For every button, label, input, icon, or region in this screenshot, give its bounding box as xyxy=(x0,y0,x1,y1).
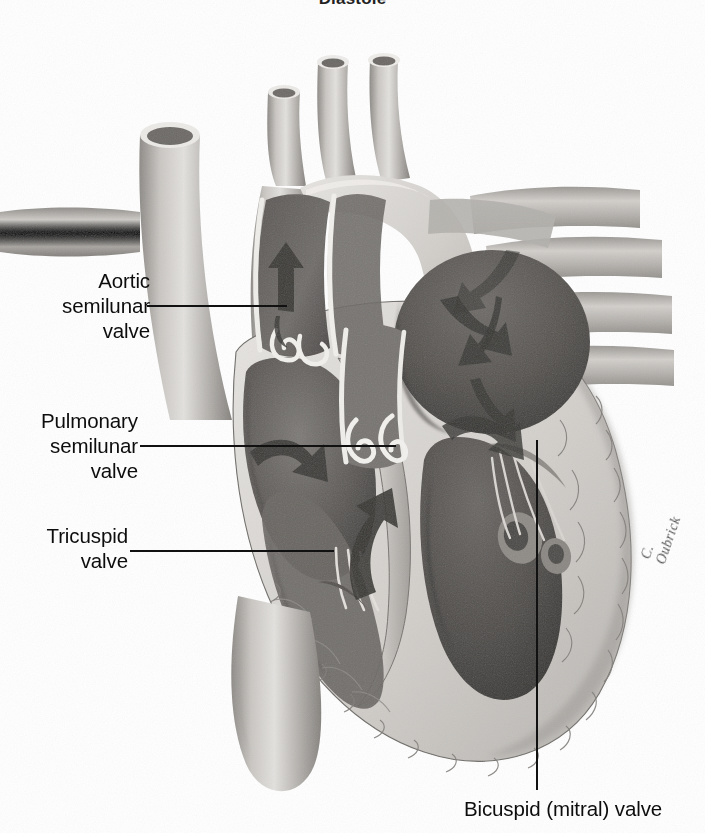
figure-canvas: Diastole xyxy=(0,0,705,833)
leader-line-aortic xyxy=(147,305,287,307)
label-pulmonary-semilunar-valve: Pulmonary semilunar valve xyxy=(4,408,138,483)
inferior-vena-cava xyxy=(231,596,321,791)
label-bicuspid-mitral-valve: Bicuspid (mitral) valve xyxy=(432,796,694,821)
label-tricuspid-valve: Tricuspid valve xyxy=(18,523,128,573)
label-aortic-semilunar-valve: Aortic semilunar valve xyxy=(12,268,150,343)
leader-line-pulmonary xyxy=(140,445,396,447)
leader-line-tricuspid xyxy=(130,550,334,552)
aortic-arch-branches xyxy=(267,53,410,186)
superior-vena-cava xyxy=(139,122,232,420)
leader-line-bicuspid xyxy=(536,440,538,790)
left-pulmonary-vein-stub xyxy=(0,208,140,257)
